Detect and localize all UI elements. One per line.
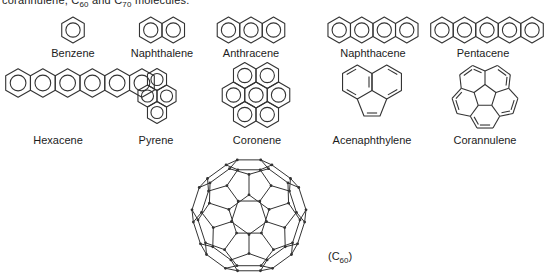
c60-label-subscript: 60 (340, 256, 349, 265)
molecular-structures-figure: corannulene, C60 and C70 molecules. Benz… (0, 0, 551, 280)
acenaphthylene-structure (343, 65, 402, 116)
label-naphthacene: Naphthacene (340, 47, 405, 59)
coronene-structure (222, 63, 290, 128)
c60-structure (191, 158, 308, 272)
anthracene-structure (217, 17, 285, 43)
label-naphthalene: Naphthalene (131, 47, 193, 59)
label-c60: (C60) (328, 250, 352, 265)
naphthacene-structure (328, 17, 418, 43)
label-anthracene: Anthracene (223, 47, 279, 59)
label-benzene: Benzene (51, 47, 94, 59)
label-pentacene: Pentacene (457, 47, 510, 59)
label-coronene: Coronene (233, 134, 281, 146)
pentacene-structure (431, 17, 544, 43)
label-corannulene: Corannulene (454, 134, 517, 146)
c60-label-close: ) (349, 250, 353, 262)
label-acenaphthylene: Acenaphthylene (333, 134, 412, 146)
label-pyrene: Pyrene (139, 134, 174, 146)
hexacene-structure (6, 69, 155, 98)
naphthalene-structure (139, 17, 184, 43)
benzene-structure (62, 17, 85, 43)
c60-label-text: (C (328, 250, 340, 262)
corannulene-structure (452, 65, 518, 128)
label-hexacene: Hexacene (33, 134, 83, 146)
